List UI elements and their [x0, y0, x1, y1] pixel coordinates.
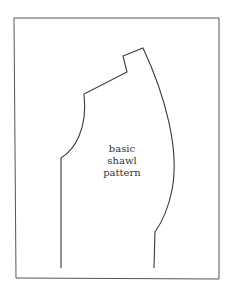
- label-line-3: pattern: [94, 167, 150, 179]
- label-line-1: basic: [94, 143, 150, 155]
- pattern-label: basic shawl pattern: [94, 143, 150, 179]
- label-line-2: shawl: [94, 155, 150, 167]
